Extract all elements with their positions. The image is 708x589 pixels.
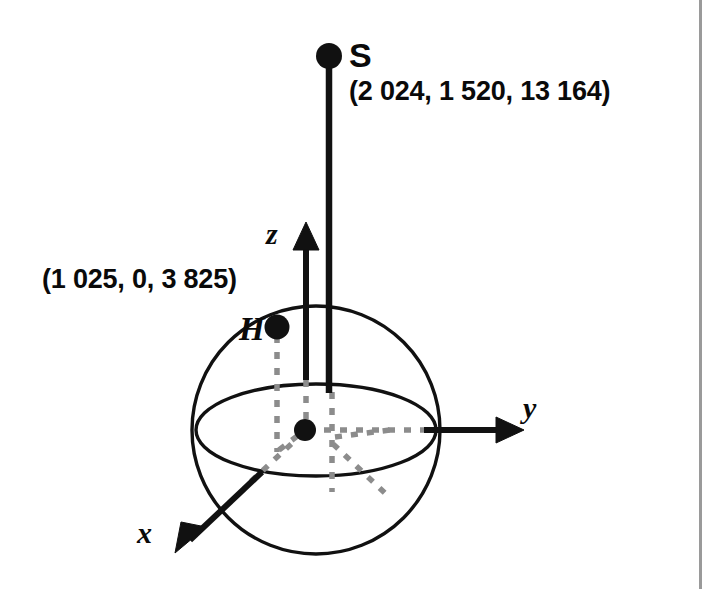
station-point-marker — [265, 315, 290, 340]
satellite-point-label: S — [349, 38, 372, 72]
station-point-label: H — [239, 313, 265, 346]
origin-point-marker — [294, 419, 316, 441]
figure-root: S (2 024, 1 520, 13 164) H (1 025, 0, 3 … — [0, 0, 708, 589]
x-axis-arrowhead — [175, 522, 206, 553]
z-axis-label: z — [266, 219, 278, 249]
y-axis-arrowhead — [496, 417, 524, 443]
station-coordinates-label: (1 025, 0, 3 825) — [42, 266, 237, 293]
z-axis-arrowhead — [293, 222, 319, 250]
x-axis-label: x — [137, 518, 152, 548]
satellite-point-marker — [316, 43, 342, 69]
y-axis-label: y — [523, 393, 536, 423]
satellite-coordinates-label: (2 024, 1 520, 13 164) — [349, 78, 610, 105]
